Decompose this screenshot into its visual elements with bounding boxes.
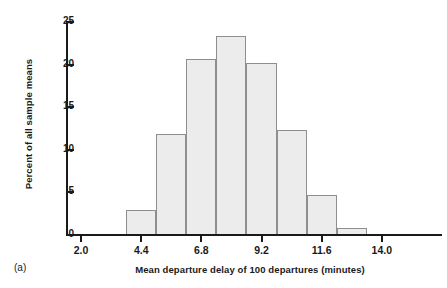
x-axis-tick xyxy=(321,236,323,242)
x-axis-tick xyxy=(261,236,263,242)
histogram-bar xyxy=(126,210,156,235)
panel-label: (a) xyxy=(14,262,26,274)
y-axis-tick-label-wrap: 10 xyxy=(40,149,74,151)
y-axis-tick-label-wrap: 0 xyxy=(40,234,74,236)
x-axis-tick-label: 4.4 xyxy=(121,244,161,256)
x-axis-title: Mean departure delay of 100 departures (… xyxy=(60,264,440,276)
histogram-bar xyxy=(277,130,307,235)
y-axis-tick-label-wrap: 20 xyxy=(40,64,74,66)
y-axis-tick-label: 0 xyxy=(52,229,74,239)
histogram-bar xyxy=(246,63,276,235)
y-axis-tick-label-wrap: 25 xyxy=(40,21,74,23)
x-axis-tick-label: 14.0 xyxy=(362,244,402,256)
y-axis-title: Percent of all sample means xyxy=(22,18,36,230)
x-axis-tick xyxy=(200,236,202,242)
histogram-figure: Percent of all sample means Mean departu… xyxy=(0,0,447,288)
histogram-bar xyxy=(216,36,246,235)
x-axis-tick xyxy=(381,236,383,242)
x-axis-tick-label: 9.2 xyxy=(242,244,282,256)
x-axis-tick-label: 2.0 xyxy=(61,244,101,256)
x-axis-tick xyxy=(80,236,82,242)
y-axis-tick-label: 25 xyxy=(52,16,74,26)
y-axis-tick-label-wrap: 5 xyxy=(40,191,74,193)
x-axis-line xyxy=(66,234,442,236)
histogram-bar xyxy=(186,59,216,235)
histogram-bar xyxy=(307,195,337,235)
y-axis-tick-label: 5 xyxy=(52,186,74,196)
y-axis-tick-label: 20 xyxy=(52,59,74,69)
y-axis-line xyxy=(66,21,68,236)
x-axis-tick-label: 6.8 xyxy=(181,244,221,256)
histogram-bar xyxy=(156,134,186,235)
y-axis-tick-label: 10 xyxy=(52,144,74,154)
y-axis-tick-label-wrap: 15 xyxy=(40,106,74,108)
x-axis-tick xyxy=(140,236,142,242)
x-axis-tick-label: 11.6 xyxy=(302,244,342,256)
y-axis-tick-label: 15 xyxy=(52,101,74,111)
